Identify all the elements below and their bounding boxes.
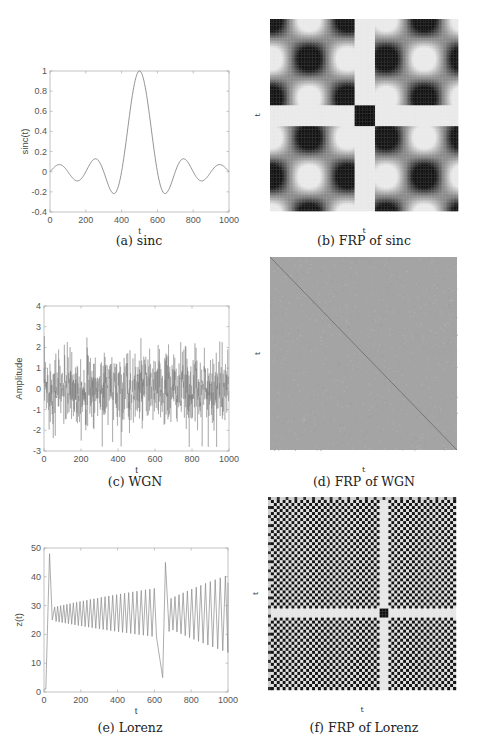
frp-lorenz-heatmap: tt: [240, 0, 477, 751]
y-axis-label: t: [251, 591, 260, 595]
caption-frp-lorenz: (f) FRP of Lorenz: [310, 720, 419, 735]
frp-cells: [268, 497, 456, 690]
caption-lorenz: (e) Lorenz: [98, 720, 163, 735]
panel-lorenz: 0200400600800100001020304050tz(t) (e) Lo…: [0, 0, 240, 751]
y-tick-label: 50: [31, 543, 41, 553]
x-tick-label: 1000: [218, 695, 238, 705]
y-tick-label: 40: [31, 572, 41, 582]
y-tick-label: 0: [36, 687, 41, 697]
y-tick-label: 30: [31, 601, 41, 611]
panel-frp-lorenz: tt (f) FRP of Lorenz: [240, 0, 477, 751]
x-axis-label: t: [360, 705, 364, 714]
x-tick-label: 400: [110, 695, 125, 705]
x-tick-label: 800: [184, 695, 199, 705]
y-axis-label: z(t): [13, 613, 24, 627]
y-tick-label: 10: [31, 658, 41, 668]
y-tick-label: 20: [31, 629, 41, 639]
x-tick-label: 200: [73, 695, 88, 705]
lorenz-line-chart: 0200400600800100001020304050tz(t): [0, 0, 240, 751]
x-tick-label: 600: [147, 695, 162, 705]
lorenz-line: [44, 554, 228, 689]
x-tick-label: 0: [41, 695, 46, 705]
x-axis-label: t: [135, 705, 138, 716]
